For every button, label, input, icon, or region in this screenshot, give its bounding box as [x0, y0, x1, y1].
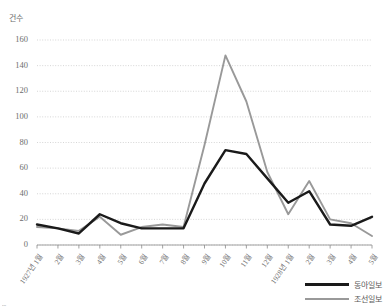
- y-axis-tick-label: 120: [2, 85, 28, 95]
- y-axis-tick-label: 80: [2, 137, 28, 147]
- legend-item: 동아일보: [305, 279, 382, 290]
- y-axis-tick-label: 100: [2, 111, 28, 121]
- series-line-donga: [37, 150, 372, 233]
- y-axis-tick-label: 160: [2, 34, 28, 44]
- y-axis-unit-label: 건수: [9, 12, 23, 23]
- y-axis-tick-label: 20: [2, 213, 28, 223]
- y-axis-tick-label: 140: [2, 60, 28, 70]
- y-axis-tick-label: 0: [2, 239, 28, 249]
- legend-label-donga: 동아일보: [354, 279, 382, 290]
- line-chart: 건수 020406080100120140160 1927년 1월2월3월4월5…: [0, 0, 388, 308]
- chart-legend: 동아일보 조선일보: [305, 279, 382, 304]
- legend-swatch-donga: [305, 283, 349, 286]
- bottom-edge-artifact: ▪▪▪: [2, 303, 28, 308]
- legend-item: 조선일보: [305, 293, 382, 304]
- legend-swatch-chosun: [305, 298, 349, 300]
- y-axis-tick-label: 60: [2, 162, 28, 172]
- legend-label-chosun: 조선일보: [354, 293, 382, 304]
- y-axis-tick-label: 40: [2, 188, 28, 198]
